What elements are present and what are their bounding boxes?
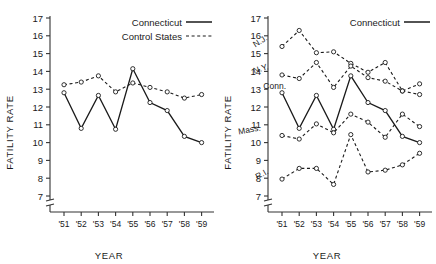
chart-panel-left: FATILITY RATE 7891011121314151617'51'52'… <box>0 0 218 264</box>
svg-text:'56: '56 <box>362 219 373 229</box>
svg-text:'57: '57 <box>380 219 391 229</box>
svg-text:15: 15 <box>250 48 261 59</box>
svg-text:Conn.: Conn. <box>263 81 286 91</box>
svg-text:12: 12 <box>250 102 261 113</box>
y-axis-title-left: FATILITY RATE <box>1 0 17 264</box>
x-axis-title-left: YEAR <box>0 250 218 261</box>
svg-text:14: 14 <box>32 66 43 77</box>
svg-text:Mass.: Mass. <box>237 123 261 137</box>
svg-text:'55: '55 <box>127 219 138 229</box>
svg-text:'52: '52 <box>294 219 305 229</box>
svg-text:8: 8 <box>38 173 43 184</box>
svg-text:'52: '52 <box>76 219 87 229</box>
svg-text:7: 7 <box>256 191 261 202</box>
svg-text:16: 16 <box>32 30 43 41</box>
svg-text:17: 17 <box>250 13 261 24</box>
svg-text:Connecticut: Connecticut <box>350 17 401 28</box>
svg-text:Control States: Control States <box>122 31 182 42</box>
svg-text:'58: '58 <box>397 219 408 229</box>
svg-text:11: 11 <box>33 119 43 130</box>
svg-text:12: 12 <box>32 102 43 113</box>
svg-text:10: 10 <box>250 137 261 148</box>
svg-text:'51: '51 <box>58 219 69 229</box>
svg-text:N.Y.: N.Y. <box>252 61 270 75</box>
svg-text:17: 17 <box>32 13 43 24</box>
chart-panel-right: FATILITY RATE 7891011121314151617'51'52'… <box>218 0 436 264</box>
x-axis-title-right: YEAR <box>218 250 436 261</box>
svg-text:'55: '55 <box>345 219 356 229</box>
svg-text:'51: '51 <box>276 219 287 229</box>
svg-text:'56: '56 <box>144 219 155 229</box>
plot-area-left: 7891011121314151617'51'52'53'54'55'56'57… <box>16 0 218 264</box>
y-axis-title-right: FATILITY RATE <box>219 0 235 264</box>
svg-text:9: 9 <box>38 155 43 166</box>
svg-text:13: 13 <box>32 84 43 95</box>
svg-text:Connecticut: Connecticut <box>132 17 183 28</box>
svg-text:'59: '59 <box>196 219 207 229</box>
svg-text:'57: '57 <box>162 219 173 229</box>
svg-text:10: 10 <box>32 137 43 148</box>
chart-svg-left: 7891011121314151617'51'52'53'54'55'56'57… <box>16 0 218 240</box>
svg-text:'53: '53 <box>311 219 322 229</box>
svg-text:13: 13 <box>250 84 261 95</box>
svg-text:15: 15 <box>32 48 43 59</box>
svg-text:'59: '59 <box>414 219 425 229</box>
chart-svg-right: 7891011121314151617'51'52'53'54'55'56'57… <box>234 0 436 240</box>
svg-text:'58: '58 <box>179 219 190 229</box>
svg-text:9: 9 <box>256 155 261 166</box>
plot-area-right: 7891011121314151617'51'52'53'54'55'56'57… <box>234 0 436 264</box>
figure-container: FATILITY RATE 7891011121314151617'51'52'… <box>0 0 436 264</box>
svg-text:'54: '54 <box>110 219 121 229</box>
svg-text:'54: '54 <box>328 219 339 229</box>
svg-text:'53: '53 <box>93 219 104 229</box>
svg-text:7: 7 <box>38 191 43 202</box>
